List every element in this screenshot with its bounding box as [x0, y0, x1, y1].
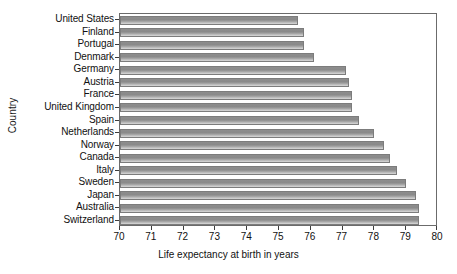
x-axis-tick	[246, 226, 247, 230]
bar	[120, 204, 419, 213]
y-axis-category-label: Austria	[84, 76, 114, 88]
y-axis-category-label: Germany	[74, 63, 114, 75]
x-axis-title: Life expectancy at birth in years	[0, 249, 457, 260]
bar	[120, 191, 416, 200]
bar	[120, 91, 352, 100]
x-axis-tick-label: 74	[241, 231, 252, 242]
x-axis-tick	[342, 226, 343, 230]
y-axis-category-label: Denmark	[74, 51, 114, 63]
life-expectancy-bar-chart: Country United StatesFinlandPortugalDenm…	[0, 0, 457, 274]
y-axis-category-label: France	[83, 88, 114, 100]
bar	[120, 78, 349, 87]
bar	[120, 141, 384, 150]
bar	[120, 154, 390, 163]
y-axis-category-label: Netherlands	[61, 126, 114, 138]
bar	[120, 53, 314, 62]
x-axis-tick	[119, 226, 120, 230]
bar	[120, 103, 352, 112]
y-axis-category-label: Switzerland	[63, 214, 114, 226]
x-axis-tick	[151, 226, 152, 230]
y-axis-category-label: United Kingdom	[44, 101, 114, 113]
x-axis-tick-label: 76	[304, 231, 315, 242]
y-axis-category-label: Australia	[76, 201, 114, 213]
y-axis-title-text: Country	[8, 97, 19, 133]
x-axis-tick-label: 72	[177, 231, 188, 242]
bar	[120, 129, 374, 138]
x-axis-tick	[214, 226, 215, 230]
x-axis-tick-label: 71	[145, 231, 156, 242]
bar	[120, 66, 346, 75]
x-axis-tick-label: 80	[431, 231, 442, 242]
y-axis-category-label: Sweden	[78, 176, 114, 188]
x-axis-tick	[278, 226, 279, 230]
x-axis-tick	[436, 226, 437, 230]
bar	[120, 179, 406, 188]
y-axis-category-label: Norway	[81, 139, 114, 151]
y-axis-category-label: Portugal	[78, 38, 114, 50]
y-axis-category-labels: United StatesFinlandPortugalDenmarkGerma…	[24, 14, 114, 226]
bar	[120, 216, 419, 225]
y-axis-category-label: Italy	[96, 164, 114, 176]
x-axis-tick-label: 77	[336, 231, 347, 242]
x-axis-title-text: Life expectancy at birth in years	[158, 249, 299, 260]
y-axis-category-label: Canada	[80, 151, 114, 163]
x-axis-tick	[373, 226, 374, 230]
y-axis-category-label: Japan	[87, 189, 114, 201]
y-axis-category-label: Spain	[89, 114, 114, 126]
x-axis-tick-label: 78	[368, 231, 379, 242]
y-axis-title: Country	[2, 0, 24, 230]
bar	[120, 116, 359, 125]
y-axis-category-label: Finland	[82, 26, 114, 38]
y-axis-category-label: United States	[55, 13, 114, 25]
x-axis-tick	[183, 226, 184, 230]
x-axis-tick	[310, 226, 311, 230]
bar	[120, 41, 304, 50]
x-axis-tick-label: 70	[113, 231, 124, 242]
bar	[120, 16, 298, 25]
plot-area	[119, 13, 437, 226]
bar	[120, 166, 397, 175]
x-axis-tick	[405, 226, 406, 230]
x-axis-tick-label: 79	[400, 231, 411, 242]
x-axis-tick-label: 73	[209, 231, 220, 242]
x-axis-tick-label: 75	[272, 231, 283, 242]
bar	[120, 28, 304, 37]
